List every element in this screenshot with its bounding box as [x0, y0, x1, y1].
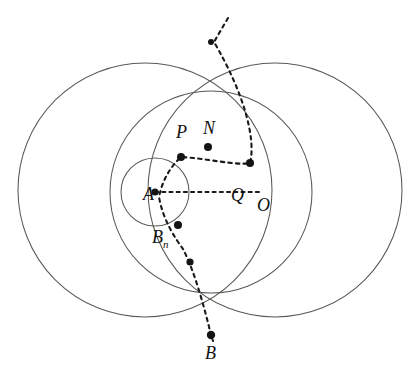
large-circles-group — [18, 63, 402, 317]
point-P — [177, 153, 185, 161]
point-intermediate — [186, 258, 193, 265]
label-Q: Q — [231, 186, 244, 204]
label-O: O — [257, 196, 270, 214]
label-P: P — [176, 123, 187, 141]
point-B — [207, 331, 215, 339]
label-Bn-subscript: n — [163, 238, 169, 250]
point-Q — [246, 159, 254, 167]
figure-canvas: P N A Q O Bn B — [0, 0, 418, 374]
point-Bn — [174, 221, 182, 229]
large-circle-right — [148, 63, 402, 317]
point-N — [204, 143, 212, 151]
label-N: N — [203, 119, 215, 137]
geometry-figure — [0, 0, 418, 374]
label-B: B — [205, 344, 216, 362]
label-Bn: Bn — [152, 228, 169, 250]
point-top-intersection — [208, 39, 214, 45]
label-A: A — [143, 185, 154, 203]
